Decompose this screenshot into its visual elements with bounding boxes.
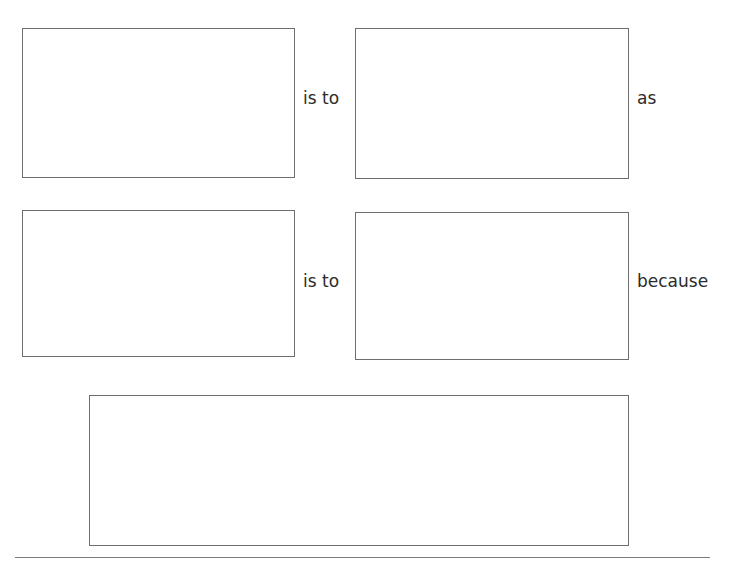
analogy-box-term-d[interactable] (355, 212, 629, 360)
analogy-box-explanation[interactable] (89, 395, 629, 546)
bottom-divider (15, 557, 710, 558)
connector-is-to-row2: is to (303, 273, 339, 290)
analogy-box-term-a[interactable] (22, 28, 295, 178)
connector-because: because (637, 273, 708, 290)
connector-is-to-row1: is to (303, 90, 339, 107)
connector-as: as (637, 90, 656, 107)
analogy-box-term-c[interactable] (22, 210, 295, 357)
analogy-box-term-b[interactable] (355, 28, 629, 179)
